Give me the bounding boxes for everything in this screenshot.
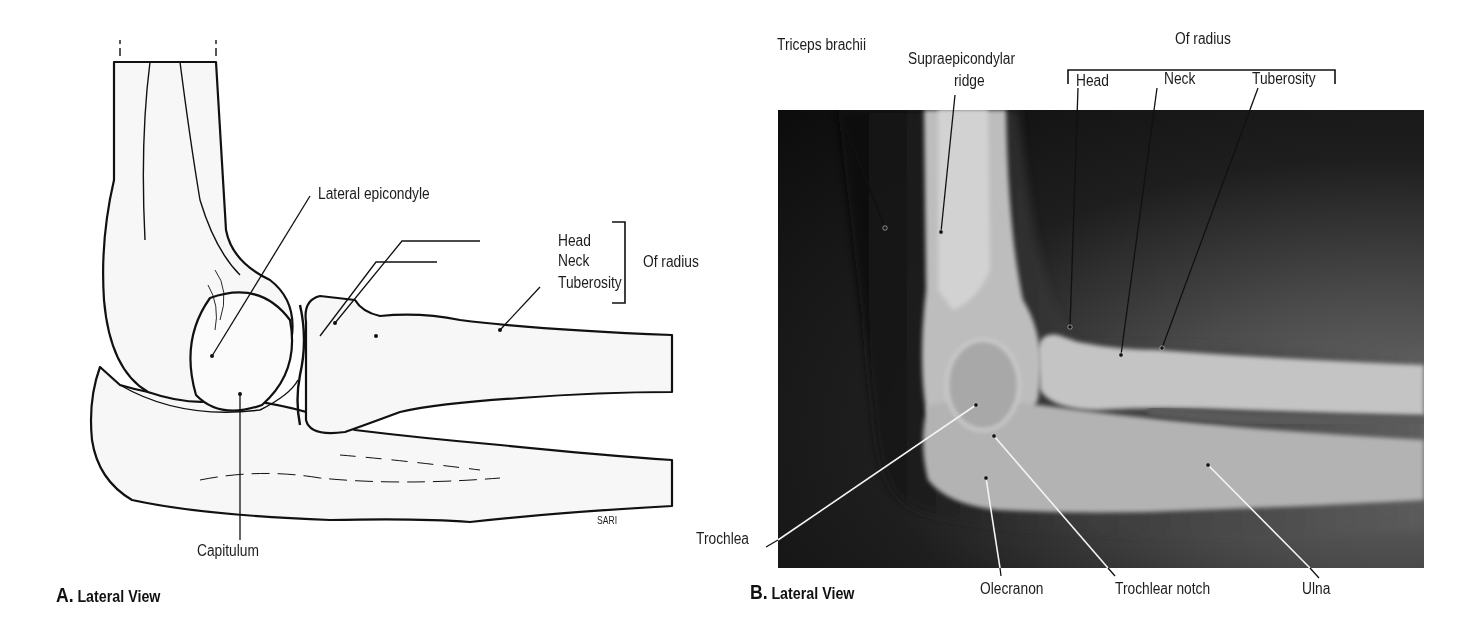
label-lateral-epicondyle: Lateral epicondyle	[318, 185, 430, 203]
caption-a: A. Lateral View	[56, 583, 160, 607]
caption-b-text: Lateral View	[771, 584, 854, 603]
label-supraepicondylar-ridge-line2: ridge	[954, 72, 985, 90]
leader-lines-b	[690, 0, 1483, 639]
label-supraepicondylar-ridge-line1: Supraepicondylar	[908, 50, 1015, 68]
panel-a-drawing: Lateral epicondyle Head Neck Tuberosity …	[0, 0, 700, 639]
label-radius-tuberosity-b: Tuberosity	[1252, 70, 1316, 88]
artist-signature: SARI	[597, 512, 617, 530]
label-radius-tuberosity: Tuberosity	[558, 274, 622, 292]
label-trochlea: Trochlea	[696, 530, 749, 548]
label-olecranon: Olecranon	[980, 580, 1043, 598]
caption-a-text: Lateral View	[77, 587, 160, 606]
caption-a-letter: A.	[56, 583, 74, 606]
panel-b-radiograph: Triceps brachii Supraepicondylar ridge O…	[690, 0, 1483, 639]
label-radius-neck-b: Neck	[1164, 70, 1195, 88]
caption-b-letter: B.	[750, 580, 768, 603]
elbow-line-drawing	[0, 0, 700, 639]
label-radius-head: Head	[558, 232, 591, 250]
caption-b: B. Lateral View	[750, 580, 854, 604]
label-radius-head-b: Head	[1076, 72, 1109, 90]
label-triceps-brachii: Triceps brachii	[777, 36, 866, 54]
label-capitulum: Capitulum	[197, 542, 259, 560]
label-radius-neck: Neck	[558, 252, 589, 270]
label-trochlear-notch: Trochlear notch	[1115, 580, 1210, 598]
label-of-radius-b: Of radius	[1175, 30, 1231, 48]
label-ulna: Ulna	[1302, 580, 1330, 598]
